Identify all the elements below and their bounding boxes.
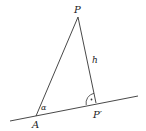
label-p-prime: P′ [92,109,103,120]
label-p: P [73,4,81,15]
right-angle-dot [91,99,93,101]
base-line [10,96,138,121]
label-alpha: α [41,103,47,112]
label-a: A [31,119,39,130]
right-angle-arc [86,93,94,105]
segment-ap [36,17,78,116]
label-h: h [92,55,98,65]
geometry-diagram: P A P′ h α [0,0,146,131]
